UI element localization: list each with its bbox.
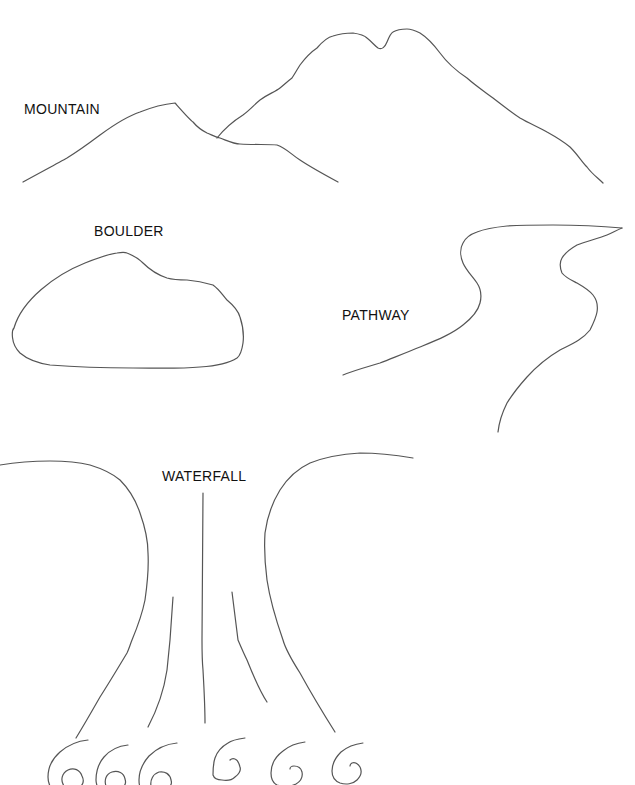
swirl-icon: [139, 743, 177, 785]
mountain-label: MOUNTAIN: [24, 102, 100, 116]
mountain-right-peak: [217, 29, 603, 183]
swirl-icon: [271, 742, 305, 785]
waterfall-stream-center: [202, 493, 205, 723]
swirl-icon: [332, 743, 363, 784]
mountain-drawing: [23, 29, 603, 183]
sketch-canvas: [0, 0, 635, 785]
pathway-right-edge: [498, 228, 622, 432]
boulder-drawing: [12, 252, 243, 368]
boulder-outline: [12, 252, 243, 368]
swirl-icon: [48, 740, 88, 785]
pathway-drawing: [343, 225, 622, 432]
boulder-label: BOULDER: [94, 224, 164, 238]
waterfall-right-bank: [265, 453, 413, 732]
swirl-icon: [96, 745, 128, 785]
waterfall-splash-swirls: [48, 738, 363, 785]
waterfall-stream-inner-right: [232, 592, 267, 702]
swirl-icon: [213, 738, 245, 780]
waterfall-left-bank: [0, 461, 148, 738]
pathway-label: PATHWAY: [342, 308, 410, 322]
waterfall-label: WATERFALL: [162, 469, 246, 483]
waterfall-drawing: [0, 453, 413, 785]
pathway-left-edge: [343, 225, 622, 375]
waterfall-stream-inner-left: [148, 597, 173, 727]
